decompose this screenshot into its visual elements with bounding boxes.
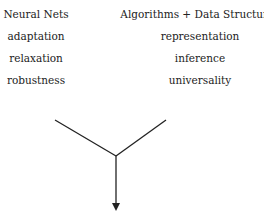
left-merge-line xyxy=(55,120,116,156)
right-merge-line xyxy=(116,120,166,156)
merge-diagram xyxy=(0,0,264,221)
down-arrow-head xyxy=(112,203,120,211)
